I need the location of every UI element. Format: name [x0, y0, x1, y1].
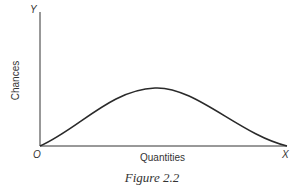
origin-label: O: [33, 149, 41, 160]
curve-line: [40, 88, 287, 146]
figure-caption: Figure 2.2: [0, 170, 304, 186]
chart-canvas: [0, 0, 304, 193]
y-axis-end-label: Y: [30, 4, 37, 15]
y-axis-label: Chances: [10, 61, 21, 100]
x-axis-label: Quantities: [140, 152, 185, 163]
x-axis-end-label: X: [282, 149, 289, 160]
